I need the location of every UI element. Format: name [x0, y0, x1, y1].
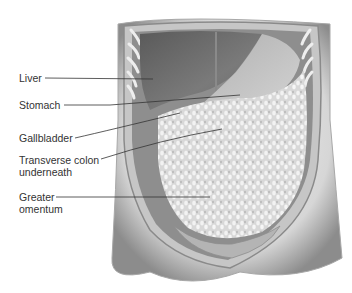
label-gallbladder: Gallbladder: [19, 132, 73, 144]
label-transverse-colon: Transverse colon: [19, 154, 99, 166]
label-liver: Liver: [19, 72, 42, 84]
label-greater-omentum: Greater: [19, 191, 55, 203]
abdomen-illustration: [0, 0, 352, 293]
anatomy-figure: Liver Stomach Gallbladder Transverse col…: [0, 0, 352, 293]
label-transverse-colon-line2: underneath: [19, 166, 72, 178]
label-greater-omentum-line2: omentum: [19, 203, 63, 215]
label-stomach: Stomach: [19, 99, 60, 111]
